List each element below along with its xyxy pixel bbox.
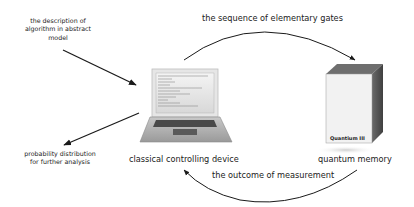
output-arrow [64, 113, 139, 145]
quantum-box-brand: Quantium III [330, 135, 365, 141]
laptop-icon [140, 69, 232, 142]
quantum-memory-box-icon: Quantium III [316, 64, 383, 154]
gates-arc-arrow [184, 32, 355, 60]
diagram-graphics: Quantium III [0, 0, 414, 207]
input-arrow [63, 50, 136, 85]
measurement-arc-arrow [184, 170, 357, 202]
